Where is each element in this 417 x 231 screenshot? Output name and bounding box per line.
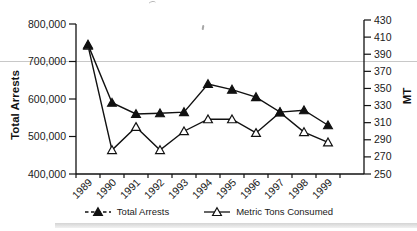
right-tick-label: 430 <box>374 14 392 26</box>
legend-item-total-arrests: Total Arrests <box>84 206 169 217</box>
x-tick-label: 1998 <box>285 176 310 201</box>
x-tick-label: 1992 <box>141 176 166 201</box>
x-tick-label: 1997 <box>261 176 286 201</box>
x-tick-label: 1994 <box>189 176 214 201</box>
scan-edge-shadow <box>55 223 417 228</box>
right-axis-title: MT <box>401 88 413 105</box>
legend-label-metric-tons: Metric Tons Consumed <box>236 206 333 217</box>
x-tick-label: 1995 <box>213 176 238 201</box>
x-tick-label: 1993 <box>165 176 190 201</box>
left-tick-label: 400,000 <box>28 168 66 180</box>
open-triangle-solid-line-icon <box>203 206 231 217</box>
chart-legend: Total Arrests Metric Tons Consumed <box>0 206 417 217</box>
right-tick-label: 290 <box>374 133 392 145</box>
left-tick-label: 800,000 <box>28 18 66 30</box>
legend-label-total-arrests: Total Arrests <box>117 206 169 217</box>
right-tick-label: 390 <box>374 48 392 60</box>
x-tick-label: 1996 <box>237 176 262 201</box>
right-tick-label: 310 <box>374 116 392 128</box>
x-tick-label: 1999 <box>309 176 334 201</box>
right-tick-label: 270 <box>374 150 392 162</box>
left-tick-label: 600,000 <box>28 93 66 105</box>
left-tick-label: 500,000 <box>28 130 66 142</box>
x-tick-label: 1990 <box>93 176 118 201</box>
right-tick-label: 410 <box>374 31 392 43</box>
left-axis-title: Total Arrests <box>9 70 21 140</box>
right-tick-label: 370 <box>374 65 392 77</box>
filled-triangle-dashed-line-icon <box>84 206 112 217</box>
x-tick-label: 1991 <box>117 176 142 201</box>
right-tick-label: 250 <box>374 168 392 180</box>
x-tick-label: 1989 <box>69 176 94 201</box>
right-tick-label: 350 <box>374 82 392 94</box>
series-metric-tons-consumed <box>84 41 333 153</box>
right-tick-label: 330 <box>374 99 392 111</box>
line-chart-canvas: 400,000500,000600,000700,000800,00025027… <box>0 0 417 231</box>
left-tick-label: 700,000 <box>28 55 66 67</box>
legend-item-metric-tons: Metric Tons Consumed <box>203 206 333 217</box>
chart-figure: 400,000500,000600,000700,000800,00025027… <box>0 0 417 231</box>
